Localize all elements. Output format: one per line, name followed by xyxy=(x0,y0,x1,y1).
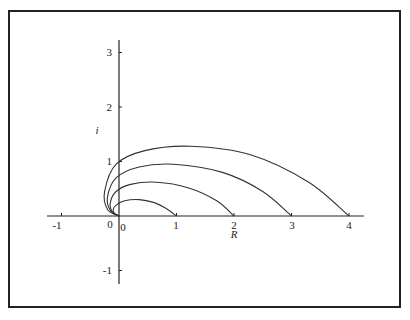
y-tick-label-1: 1 xyxy=(107,155,113,167)
curve-4-line xyxy=(104,146,349,216)
curve-1-line xyxy=(113,200,176,216)
y-tick-label-3: 3 xyxy=(107,46,113,58)
y-tick-label-2: 2 xyxy=(107,101,113,113)
chart-plot-area: -1 0 0 1 2 3 4 R 3 2 1 -1 i xyxy=(0,0,410,320)
y-tick-label-neg1: -1 xyxy=(103,264,112,276)
x-axis-label: R xyxy=(230,228,238,240)
axes xyxy=(47,40,364,284)
curve-3-line xyxy=(107,164,291,216)
x-tick-label-3: 3 xyxy=(289,219,295,231)
y-axis-label: i xyxy=(95,124,98,136)
x-tick-label-0: 0 xyxy=(120,221,126,233)
origin-label: 0 xyxy=(107,218,113,230)
x-tick-label-1: 1 xyxy=(173,219,179,231)
ticks xyxy=(62,53,350,271)
curves xyxy=(104,146,349,216)
x-tick-label-4: 4 xyxy=(346,219,352,231)
tick-labels: -1 0 0 1 2 3 4 R 3 2 1 -1 i xyxy=(52,46,352,276)
curve-2-line xyxy=(110,182,234,216)
x-tick-label-neg1: -1 xyxy=(52,219,61,231)
